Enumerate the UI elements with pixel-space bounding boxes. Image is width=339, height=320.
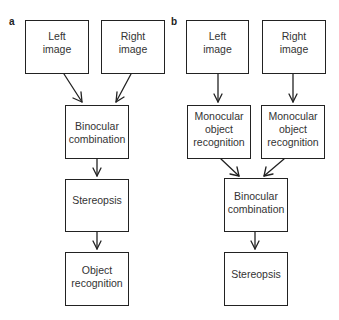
arrow-b-monocular-left-to-binocular: [221, 159, 239, 176]
arrow-b-binocular-to-stereopsis: [251, 232, 259, 249]
arrow-b-right-to-monocular: [289, 74, 297, 102]
arrows-layer: [0, 0, 339, 320]
arrow-a-binocular-to-stereopsis: [93, 159, 101, 176]
arrow-b-monocular-right-to-binocular: [264, 159, 284, 176]
arrow-a-stereopsis-to-object: [93, 232, 101, 249]
arrow-a-right-to-binocular: [116, 74, 131, 102]
arrow-b-left-to-monocular: [214, 74, 222, 102]
arrow-a-left-to-binocular: [64, 74, 82, 102]
